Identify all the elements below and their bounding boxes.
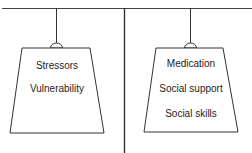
right-label-social-skills: Social skills [165,108,217,119]
balance-diagram [0,0,252,153]
right-label-medication: Medication [167,58,215,69]
right-label-social-support: Social support [159,83,222,94]
left-label-stressors: Stressors [36,60,78,71]
left-label-vulnerability: Vulnerability [30,83,84,94]
left-hook [51,43,63,48]
right-hook [185,43,197,48]
